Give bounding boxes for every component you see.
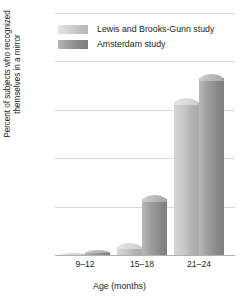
- bar-lewis-9-12: [60, 253, 85, 255]
- bar-body: [142, 199, 167, 256]
- bar-cap: [85, 250, 110, 253]
- bar-lewis-21-24: [174, 98, 199, 255]
- legend-item-amsterdam: Amsterdam study: [58, 38, 214, 50]
- y-axis-title-line-1: Percent of subjects who recognized: [3, 10, 12, 138]
- legend: Lewis and Brooks-Gunn study Amsterdam st…: [58, 23, 214, 53]
- bar-body: [174, 102, 199, 255]
- x-axis-title: Age (months): [0, 281, 239, 291]
- x-tick-label-15-18: 15–18: [112, 259, 172, 269]
- y-axis-title-line-2: themselves in a mirror: [13, 34, 22, 113]
- bar-cap: [199, 74, 224, 81]
- bar-lewis-15-18: [117, 243, 142, 255]
- bar-cap: [117, 243, 142, 249]
- x-tick-label-21-24: 21–24: [169, 259, 229, 269]
- legend-item-lewis: Lewis and Brooks-Gunn study: [58, 23, 214, 35]
- legend-label-amsterdam: Amsterdam study: [97, 39, 165, 49]
- axis-baseline: [55, 255, 235, 256]
- bar-cap: [174, 98, 199, 105]
- y-axis-title: Percent of subjects who recognized thems…: [0, 0, 27, 174]
- bar-cap: [142, 195, 167, 202]
- gridline-100: [55, 13, 235, 14]
- legend-label-lewis: Lewis and Brooks-Gunn study: [97, 24, 214, 34]
- bar-amsterdam-15-18: [142, 195, 167, 256]
- x-tick-label-9-12: 9–12: [55, 259, 115, 269]
- bar-amsterdam-9-12: [85, 250, 110, 255]
- bar-body: [199, 78, 224, 256]
- gridline-80: [55, 61, 235, 62]
- bar-chart: Percent of subjects who recognized thems…: [0, 0, 239, 304]
- bar-amsterdam-21-24: [199, 74, 224, 256]
- legend-swatch-amsterdam: [58, 40, 88, 49]
- bar-cap: [60, 253, 85, 255]
- legend-swatch-lewis: [58, 25, 88, 34]
